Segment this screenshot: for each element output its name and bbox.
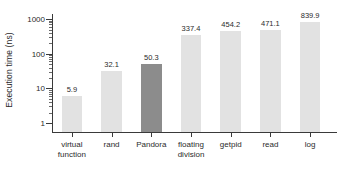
x-category-label-line1: Pandora <box>136 140 166 149</box>
bar-value-label: 50.3 <box>144 53 159 62</box>
bar-value-label: 839.9 <box>301 11 320 20</box>
y-tick-mark <box>49 55 52 56</box>
y-tick-mark <box>49 21 52 22</box>
y-tick-mark <box>49 106 52 107</box>
x-category-label-line1: floating <box>178 140 204 149</box>
x-category-label-line1: read <box>262 140 278 149</box>
y-tick-mark <box>49 37 52 38</box>
bar-slot: 471.1 <box>260 14 281 132</box>
y-axis-title: Execution time (ns) <box>0 0 18 140</box>
y-tick-mark <box>49 57 52 58</box>
y-tick-mark <box>49 27 52 28</box>
y-tick-mark <box>49 92 52 93</box>
x-category-label-line1: virtual <box>61 140 82 149</box>
y-tick-mark <box>49 30 52 31</box>
y-tick-mark <box>49 113 52 114</box>
bar-slot: 839.9 <box>300 14 321 132</box>
y-tick-mark <box>49 22 52 23</box>
x-category-label: rand <box>104 140 120 150</box>
x-tick-mark <box>231 133 232 137</box>
bar[interactable] <box>220 31 241 132</box>
x-category-label: Pandora <box>136 140 166 150</box>
x-category-label: read <box>262 140 278 150</box>
x-tick-mark <box>191 133 192 137</box>
bar[interactable] <box>260 30 281 132</box>
y-tick-mark <box>49 96 52 97</box>
bar[interactable] <box>141 64 162 132</box>
bar-slot: 5.9 <box>62 14 83 132</box>
y-tick-mark <box>49 61 52 62</box>
x-category-label-line2: division <box>178 150 205 160</box>
bar-slot: 32.1 <box>101 14 122 132</box>
bar[interactable] <box>101 71 122 132</box>
y-tick-mark <box>49 43 52 44</box>
y-tick-mark <box>49 59 52 60</box>
bar-value-label: 454.2 <box>221 20 240 29</box>
bar[interactable] <box>62 96 83 132</box>
x-category-label-line1: getpid <box>220 140 242 149</box>
y-tick-mark <box>49 94 52 95</box>
x-tick-mark <box>112 133 113 137</box>
bar-value-label: 32.1 <box>104 60 119 69</box>
x-tick-mark <box>151 133 152 137</box>
y-tick-mark <box>49 78 52 79</box>
plot-area: 1101001000 5.932.150.3337.4454.2471.1839… <box>52 14 330 132</box>
y-tick-label: 1000 <box>27 15 45 24</box>
y-tick-mark <box>49 102 52 103</box>
y-tick-label: 100 <box>32 49 45 58</box>
x-tick-mark <box>270 133 271 137</box>
y-tick-label: 10 <box>36 84 45 93</box>
y-tick-mark <box>49 64 52 65</box>
bar[interactable] <box>181 35 202 132</box>
bar-slot: 454.2 <box>220 14 241 132</box>
x-category-label: log <box>305 140 316 150</box>
x-category-label: getpid <box>220 140 242 150</box>
y-tick-mark <box>49 24 52 25</box>
y-tick-mark <box>49 68 52 69</box>
y-tick-mark <box>49 72 52 73</box>
x-category-label: virtualfunction <box>58 140 86 160</box>
y-axis-title-text: Execution time (ns) <box>4 32 14 108</box>
x-axis-spine <box>52 132 337 133</box>
x-tick-mark <box>310 133 311 137</box>
chart-figure: Execution time (ns) 1101001000 5.932.150… <box>0 0 343 171</box>
y-tick-mark <box>49 99 52 100</box>
y-tick-mark <box>49 33 52 34</box>
y-tick-mark <box>46 123 52 124</box>
y-tick-label: 1 <box>41 119 45 128</box>
x-category-label-line1: rand <box>104 140 120 149</box>
bar-slot: 50.3 <box>141 14 162 132</box>
x-tick-mark <box>72 133 73 137</box>
x-category-label-line1: log <box>305 140 316 149</box>
y-tick-mark <box>49 90 52 91</box>
bar-slot: 337.4 <box>181 14 202 132</box>
bar[interactable] <box>300 22 321 132</box>
bar-value-label: 337.4 <box>182 24 201 33</box>
bar-value-label: 5.9 <box>67 85 77 94</box>
bar-value-label: 471.1 <box>261 19 280 28</box>
x-category-label-line2: function <box>58 150 86 160</box>
x-category-label: floatingdivision <box>178 140 205 160</box>
